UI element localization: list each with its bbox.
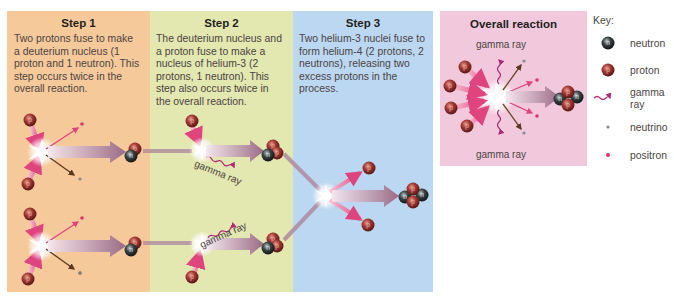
key-icons — [594, 37, 615, 158]
key-label-neutron: neutron — [630, 38, 665, 50]
key-label-positron: positron — [630, 150, 667, 162]
step-1-reaction-top — [22, 114, 142, 191]
overall-gamma-ray-top-label: gamma ray — [476, 39, 526, 50]
step-1-reaction-bottom — [22, 208, 142, 286]
key-label-neutrino: neutrino — [630, 122, 668, 134]
overall-reaction-artwork — [444, 59, 584, 134]
key-label-proton: proton — [630, 65, 659, 77]
key-title: Key: — [593, 15, 614, 27]
overall-gamma-ray-bottom-label: gamma ray — [476, 149, 526, 160]
step-2-reaction-top — [143, 115, 284, 169]
key-label-line: ray — [630, 99, 665, 111]
fusion-diagram-artwork: p n — [0, 0, 674, 303]
key-label-line: gamma — [630, 87, 665, 99]
key-label-gamma-ray: gamma ray — [630, 87, 665, 111]
step-3-reaction — [284, 154, 429, 240]
